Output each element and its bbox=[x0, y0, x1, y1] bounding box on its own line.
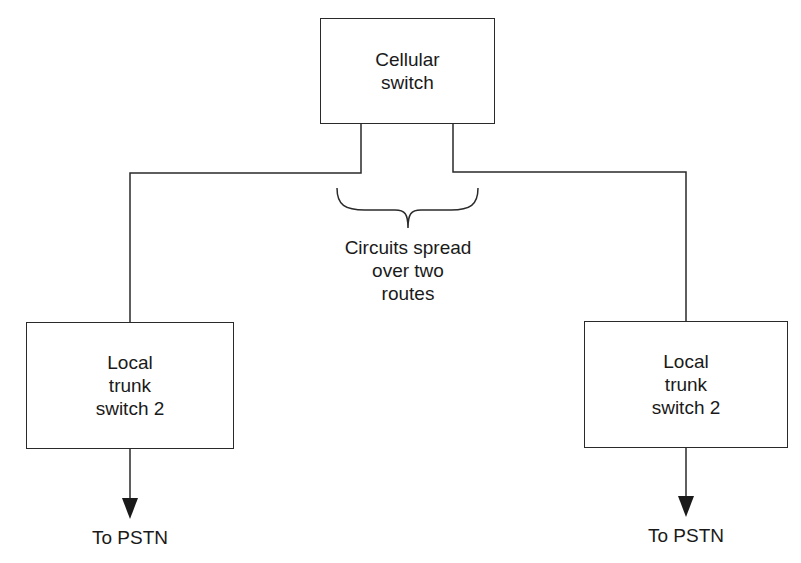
cellular-switch-label: Cellular switch bbox=[375, 48, 439, 94]
local-trunk-switch-right-box: Local trunk switch 2 bbox=[584, 321, 788, 448]
circuits-annotation: Circuits spread over two routes bbox=[318, 236, 498, 305]
to-pstn-right-label: To PSTN bbox=[626, 524, 746, 547]
local-trunk-switch-left-label: Local trunk switch 2 bbox=[96, 351, 165, 420]
local-trunk-switch-right-label: Local trunk switch 2 bbox=[652, 350, 721, 419]
brace-icon bbox=[337, 188, 478, 228]
cellular-switch-box: Cellular switch bbox=[320, 18, 495, 124]
to-pstn-left-label: To PSTN bbox=[70, 526, 190, 549]
local-trunk-switch-left-box: Local trunk switch 2 bbox=[26, 322, 234, 449]
arrow-left-head-icon bbox=[122, 498, 138, 519]
arrow-right-head-icon bbox=[678, 496, 694, 517]
